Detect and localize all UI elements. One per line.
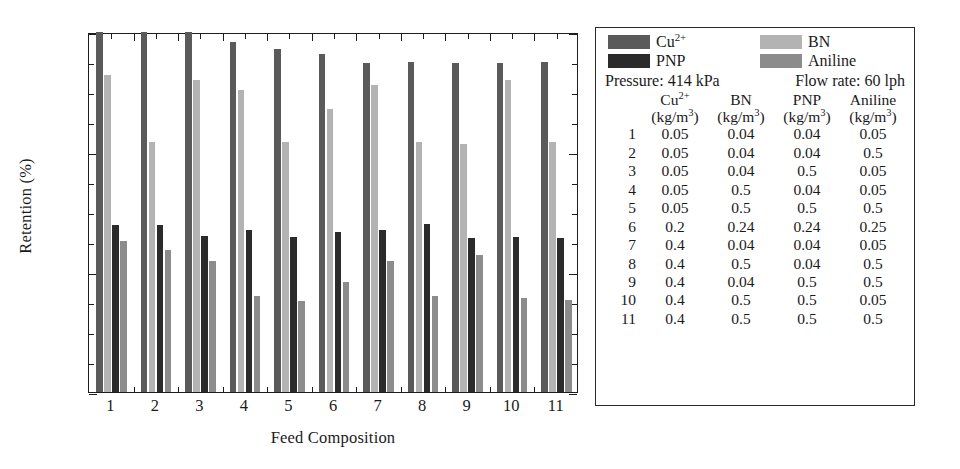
table-row: 10.050.040.040.05 <box>604 125 906 143</box>
table-header-aniline: Aniline <box>840 92 906 109</box>
table-cell-cu: 0.4 <box>642 236 708 254</box>
table-cell-cu: 0.05 <box>642 199 708 217</box>
y-axis-tick-right <box>572 124 577 125</box>
table-cell-bn: 0.04 <box>708 125 774 143</box>
y-axis-minor-tick <box>89 184 94 185</box>
table-unit-bn: (kg/m3) <box>708 109 774 126</box>
table-head: Cu2+ BN PNP Aniline (kg/m3) (kg/m3) (kg/… <box>604 92 906 125</box>
x-axis-bottom-tick <box>223 387 224 392</box>
x-axis-top-tick <box>356 34 357 41</box>
x-axis-bottom-tick <box>534 387 535 392</box>
y-axis-minor-tick <box>89 124 94 125</box>
table-header-bn: BN <box>708 92 774 109</box>
table-unit-pnp: (kg/m3) <box>774 109 840 126</box>
table-cell-pnp: 0.5 <box>774 291 840 309</box>
x-axis-tick-label: 2 <box>135 398 175 415</box>
bar-aniline-group-7 <box>387 261 394 392</box>
x-axis-tick-label: 5 <box>268 398 308 415</box>
table-cell-pnp: 0.04 <box>774 144 840 162</box>
table-cell-cu: 0.4 <box>642 255 708 273</box>
x-axis-top-tick <box>223 34 224 41</box>
x-axis-center-tick <box>557 34 558 39</box>
x-axis-center-tick <box>245 34 246 39</box>
y-axis-tick-right <box>572 244 577 245</box>
bar-aniline-group-9 <box>476 255 483 392</box>
table-cell-index: 1 <box>604 125 642 143</box>
legend-swatch-cu <box>608 35 650 49</box>
bar-bn-group-2 <box>149 142 156 392</box>
bar-cu2-group-1 <box>96 32 103 392</box>
x-axis-bottom-tick <box>356 387 357 392</box>
table-unit-aniline: (kg/m3) <box>840 109 906 126</box>
bar-cu2-group-4 <box>230 42 237 392</box>
table-unit-cu: (kg/m3) <box>642 109 708 126</box>
table-cell-pnp: 0.04 <box>774 181 840 199</box>
operating-conditions: Pressure: 414 kPa Flow rate: 60 lph <box>605 72 905 90</box>
x-axis-center-tick <box>379 34 380 39</box>
table-cell-index: 10 <box>604 291 642 309</box>
x-axis-top-tick <box>490 34 491 41</box>
table-cell-aniline: 0.05 <box>840 125 906 143</box>
table-cell-index: 11 <box>604 310 642 328</box>
legend-label-bn: BN <box>808 34 906 50</box>
pressure-text: Pressure: 414 kPa <box>605 72 720 90</box>
table-cell-index: 4 <box>604 181 642 199</box>
y-axis-minor-tick <box>89 214 94 215</box>
legend: Cu2+ BN PNP Aniline <box>608 34 906 69</box>
table-cell-cu: 0.05 <box>642 181 708 199</box>
x-axis-tick-label: 1 <box>90 398 130 415</box>
y-axis-major-tick <box>89 394 97 395</box>
bar-cu2-group-2 <box>141 32 148 392</box>
legend-label-aniline: Aniline <box>808 53 906 69</box>
bar-aniline-group-10 <box>521 298 528 392</box>
bar-aniline-group-8 <box>432 296 439 392</box>
x-axis-center-tick <box>289 34 290 39</box>
table-cell-pnp: 0.5 <box>774 273 840 291</box>
table-cell-aniline: 0.5 <box>840 199 906 217</box>
y-axis-minor-tick <box>89 94 94 95</box>
feed-composition-table: Cu2+ BN PNP Aniline (kg/m3) (kg/m3) (kg/… <box>604 92 906 328</box>
table-cell-index: 2 <box>604 144 642 162</box>
table-header-units-row: (kg/m3) (kg/m3) (kg/m3) (kg/m3) <box>604 109 906 126</box>
table-cell-bn: 0.5 <box>708 181 774 199</box>
plot-frame <box>88 33 578 393</box>
x-axis-bottom-tick <box>490 387 491 392</box>
y-axis-tick-right <box>569 394 577 395</box>
table-header-index <box>604 92 642 109</box>
table-cell-index: 9 <box>604 273 642 291</box>
table-cell-aniline: 0.05 <box>840 291 906 309</box>
y-axis-minor-tick <box>89 304 94 305</box>
table-cell-aniline: 0.5 <box>840 310 906 328</box>
bar-pnp-group-5 <box>290 237 297 392</box>
table-cell-pnp: 0.5 <box>774 162 840 180</box>
y-axis-tick-right <box>572 214 577 215</box>
bar-cu2-group-3 <box>185 32 192 392</box>
bar-cu2-group-11 <box>541 62 548 392</box>
bar-pnp-group-9 <box>468 238 475 392</box>
x-axis-tick-label: 8 <box>402 398 442 415</box>
x-axis-tick-label: 4 <box>224 398 264 415</box>
x-axis-center-tick <box>468 34 469 39</box>
legend-swatch-aniline <box>760 54 802 68</box>
table-header-index-unit <box>604 109 642 126</box>
table-cell-bn: 0.5 <box>708 310 774 328</box>
y-axis-title: Retention (%) <box>16 116 36 296</box>
x-axis-top-tick <box>445 34 446 41</box>
bar-aniline-group-2 <box>165 250 172 392</box>
x-axis-center-tick <box>334 34 335 39</box>
bar-pnp-group-3 <box>201 236 208 392</box>
x-axis-center-tick <box>200 34 201 39</box>
table-row: 90.40.040.50.5 <box>604 273 906 291</box>
bar-bn-group-3 <box>193 80 200 392</box>
y-axis-tick-right <box>572 304 577 305</box>
table-row: 100.40.50.50.05 <box>604 291 906 309</box>
bar-cu2-group-5 <box>274 49 281 392</box>
flow-rate-text: Flow rate: 60 lph <box>795 72 905 90</box>
bar-aniline-group-1 <box>120 241 127 392</box>
x-axis-top-tick <box>267 34 268 41</box>
table-row: 60.20.240.240.25 <box>604 218 906 236</box>
x-axis-tick-label: 9 <box>447 398 487 415</box>
bar-bn-group-7 <box>371 85 378 392</box>
plot-area <box>89 34 577 392</box>
x-axis-center-tick <box>111 34 112 39</box>
